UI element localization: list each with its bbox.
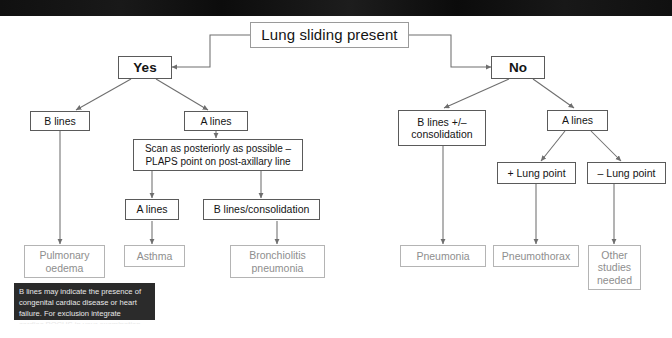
edge-yes-blines: [76, 79, 131, 110]
figure-canvas: Lung sliding present Yes No B lines A li…: [0, 0, 672, 338]
node-bronchiolitis-pneumonia[interactable]: Bronchiolitis pneumonia: [230, 245, 325, 278]
b-lines-cardiac-note: B lines may indicate the presence of con…: [14, 283, 155, 320]
node-lung-sliding-present[interactable]: Lung sliding present: [250, 22, 409, 48]
node-left-b-lines[interactable]: B lines: [30, 111, 90, 131]
node-plaps-a-lines[interactable]: A lines: [125, 199, 179, 220]
node-other-studies-needed[interactable]: Other studies needed: [588, 245, 641, 290]
edge-root-no: [409, 35, 491, 67]
node-right-a-lines[interactable]: A lines: [547, 110, 608, 131]
node-plus-lung-point[interactable]: + Lung point: [497, 162, 576, 184]
node-plaps-instruction[interactable]: Scan as posteriorly as possible – PLAPS …: [133, 139, 303, 171]
bottom-margin: [0, 324, 672, 338]
edge-yes-alines: [156, 79, 208, 110]
edge-no-alines: [533, 79, 574, 108]
node-minus-lung-point[interactable]: – Lung point: [587, 162, 666, 184]
node-yes[interactable]: Yes: [118, 56, 172, 79]
node-asthma[interactable]: Asthma: [124, 245, 185, 267]
edge-alines-minus-lung-point: [591, 131, 621, 161]
edge-alines-plus-lung-point: [541, 131, 565, 161]
node-plaps-b-lines-consolidation[interactable]: B lines/consolidation: [203, 199, 320, 220]
node-no[interactable]: No: [491, 56, 545, 79]
node-left-a-lines[interactable]: A lines: [184, 111, 248, 131]
node-pneumothorax[interactable]: Pneumothorax: [493, 245, 579, 267]
node-pulmonary-oedema[interactable]: Pulmonary oedema: [24, 245, 105, 278]
edge-root-yes: [172, 35, 250, 67]
node-right-b-lines-consolidation[interactable]: B lines +/– consolidation: [398, 110, 486, 146]
edge-no-blines-consolidation: [444, 79, 509, 108]
node-pneumonia[interactable]: Pneumonia: [400, 245, 486, 267]
